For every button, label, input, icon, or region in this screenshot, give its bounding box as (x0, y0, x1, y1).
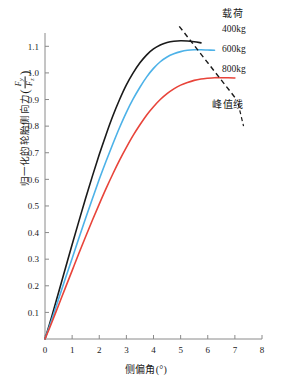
chart-figure: 0123456780.10.20.30.40.50.60.70.80.91.01… (0, 0, 292, 381)
x-tick-label: 1 (70, 345, 75, 355)
y-axis-title: 归一化的轮胎侧向力(FyFz) (15, 43, 36, 213)
fraction-numerator: F (14, 81, 23, 86)
x-axis-title-text: 侧偏角 (125, 364, 156, 375)
legend-item-600kg: 600kg (222, 44, 292, 55)
legend-item-800kg: 800kg (222, 64, 292, 75)
x-axis-title-unit: (°) (156, 364, 168, 375)
legend-title: 载荷 (222, 8, 292, 20)
y-tick-label: 0.1 (28, 308, 39, 318)
series-line-400kg (45, 41, 201, 339)
fraction-denominator: F (25, 81, 34, 86)
y-tick-label: 0.2 (28, 281, 39, 291)
y-axis-fraction: FyFz (15, 76, 36, 88)
series-line-600kg (45, 50, 215, 339)
y-tick-label: 0.3 (28, 254, 40, 264)
x-tick-label: 8 (260, 345, 265, 355)
x-tick-label: 3 (124, 345, 129, 355)
x-tick-label: 2 (97, 345, 102, 355)
fraction-denominator-sub: z (29, 78, 35, 81)
y-axis-title-text: 归一化的轮胎侧向力 (19, 94, 30, 187)
x-tick-label: 6 (206, 345, 211, 355)
legend-item-400kg: 400kg (222, 24, 292, 35)
legend: 载荷 400kg 600kg 800kg (222, 8, 292, 84)
series-line-800kg (45, 78, 235, 339)
x-tick-label: 5 (178, 345, 183, 355)
x-tick-label: 0 (43, 345, 48, 355)
y-axis-paren-open: ( (17, 89, 32, 94)
fraction-numerator-sub: y (18, 78, 24, 81)
x-tick-label: 4 (151, 345, 156, 355)
y-tick-label: 0.4 (28, 228, 40, 238)
x-axis-title: 侧偏角(°) (0, 361, 292, 376)
x-tick-label: 7 (233, 345, 238, 355)
peak-line-label: 峰值线 (212, 96, 244, 111)
y-axis-paren-close: ) (17, 70, 32, 75)
